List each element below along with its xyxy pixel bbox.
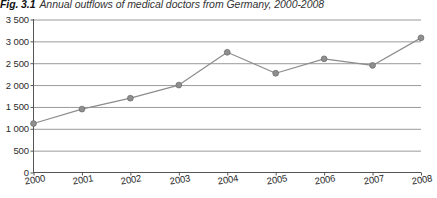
x-axis-tick-label-text: 2002 <box>111 171 152 188</box>
x-axis-tick-label: 2000 <box>14 174 54 188</box>
y-axis-tick-label-text: 500 <box>13 145 29 156</box>
data-point-marker <box>273 70 279 76</box>
y-axis-tick-label: 3 500 <box>0 14 29 25</box>
data-point-marker <box>31 121 37 127</box>
y-axis-tick-label-text: 2 500 <box>6 58 29 69</box>
x-axis-tick-label: 2001 <box>62 174 102 188</box>
y-axis-tick-label: 1 000 <box>0 123 29 134</box>
x-axis-tick-label-text: 2006 <box>304 171 345 188</box>
gridlines-group <box>34 20 422 151</box>
y-axis-tick-label: 500 <box>0 145 29 156</box>
x-axis-tick-label: 2003 <box>159 174 199 188</box>
x-axis-tick-label: 2002 <box>110 174 150 188</box>
y-axis-tick-label-text: 3 000 <box>6 36 29 47</box>
x-axis-tick-label: 2008 <box>401 174 437 188</box>
x-axis-tick-label: 2006 <box>304 174 344 188</box>
x-axis-tick-label-text: 2007 <box>353 171 394 188</box>
x-axis-tick-label-text: 2008 <box>401 171 437 188</box>
x-axis-tick-label-text: 2005 <box>256 171 297 188</box>
x-axis-tick-label: 2004 <box>207 174 247 188</box>
y-axis-tick-label: 1 500 <box>0 101 29 112</box>
data-point-marker <box>321 56 327 62</box>
y-axis-tick-label-text: 2 000 <box>6 80 29 91</box>
data-point-marker <box>418 35 424 41</box>
y-axis-tick-label-text: 3 500 <box>6 14 29 25</box>
data-point-marker <box>176 82 182 88</box>
series-markers-group <box>31 35 424 126</box>
x-axis-tick-label-text: 2003 <box>159 171 200 188</box>
y-axis-tick-label: 2 500 <box>0 58 29 69</box>
y-axis-tick-label-text: 1 000 <box>6 123 29 134</box>
data-point-marker <box>370 63 376 69</box>
y-axis-tick-label-text: 1 500 <box>6 101 29 112</box>
data-point-marker <box>127 95 133 101</box>
data-point-marker <box>79 106 85 112</box>
y-axis-tick-label: 3 000 <box>0 36 29 47</box>
x-axis-tick-label-text: 2001 <box>62 171 103 188</box>
x-axis-tick-label: 2007 <box>353 174 393 188</box>
data-point-marker <box>224 49 230 55</box>
x-axis-tick-label-text: 2004 <box>207 171 248 188</box>
x-axis-tick-label-text: 2000 <box>14 171 55 188</box>
y-axis-tick-label: 2 000 <box>0 80 29 91</box>
x-axis-tick-label: 2005 <box>256 174 296 188</box>
